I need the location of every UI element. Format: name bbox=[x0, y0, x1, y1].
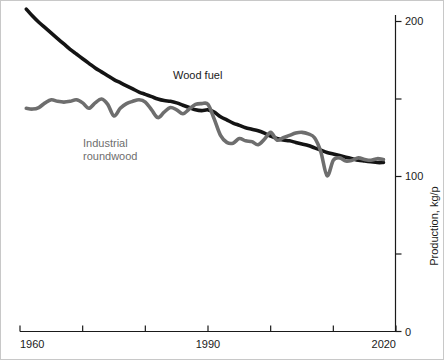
line-chart-canvas: 1960 1990 2020 200 100 0 Production, kg/… bbox=[1, 1, 444, 360]
data-series-group bbox=[26, 9, 383, 176]
x-tick-label-2020: 2020 bbox=[372, 338, 396, 350]
annotation-wood-fuel: Wood fuel bbox=[173, 69, 222, 81]
x-tick-label-1960: 1960 bbox=[20, 338, 44, 350]
y-tick-label-100: 100 bbox=[405, 170, 423, 182]
series-line-wood-fuel bbox=[26, 9, 383, 163]
y-axis-title: Production, kg/p bbox=[428, 186, 440, 266]
chart-figure: 1960 1990 2020 200 100 0 Production, kg/… bbox=[0, 0, 444, 360]
y-axis-ticks bbox=[396, 22, 402, 332]
y-tick-label-200: 200 bbox=[405, 15, 423, 27]
annotation-industrial-roundwood-line2: roundwood bbox=[83, 150, 137, 162]
axis-lines bbox=[20, 15, 396, 332]
x-tick-label-1990: 1990 bbox=[196, 338, 220, 350]
x-axis-ticks bbox=[20, 326, 396, 332]
y-tick-label-0: 0 bbox=[405, 326, 411, 338]
annotation-industrial-roundwood-line1: Industrial bbox=[83, 137, 128, 149]
